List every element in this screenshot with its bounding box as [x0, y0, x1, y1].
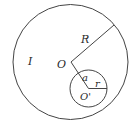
- current-label: I: [27, 55, 33, 68]
- big-center-label: O: [57, 58, 66, 71]
- small-center-label: O': [80, 91, 91, 102]
- offset-label: a: [82, 72, 88, 83]
- big-radius-label: R: [80, 33, 89, 46]
- small-radius-label: r: [95, 78, 101, 89]
- big-radius-line: [71, 25, 114, 62]
- diagram-canvas: I R O a r O': [0, 0, 135, 129]
